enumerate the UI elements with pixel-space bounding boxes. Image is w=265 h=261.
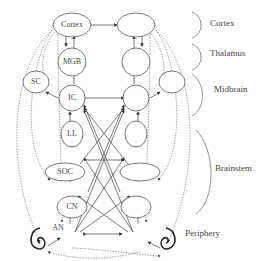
node-cn-right [121,196,151,218]
svg-text:MGB: MGB [63,57,81,66]
region-cortex: Cortex [210,18,235,28]
node-cortex-right [117,13,155,37]
auditory-pathway-diagram: Cortex MGB SC IC LL SOC CN AN Cortex Tha… [0,0,265,261]
svg-text:LL: LL [67,129,77,138]
node-ll-left: LL [61,121,83,147]
svg-text:IC: IC [68,93,76,102]
node-ll-right [125,121,147,147]
node-ic-left: IC [59,85,85,111]
node-soc-right [120,163,160,181]
node-cn-left: CN [57,196,87,218]
brace-cortex [192,12,201,38]
svg-text:SOC: SOC [57,167,73,176]
region-brainstem: Brainstem [215,163,252,173]
brace-midbrain [192,74,203,116]
svg-text:Cortex: Cortex [61,20,83,29]
node-sc-left: SC [23,71,49,93]
node-mgb-right [122,48,150,76]
node-mgb-left: MGB [58,48,86,76]
node-ic-right [123,85,149,111]
region-midbrain: Midbrain [214,84,248,94]
node-sc-right [159,71,185,93]
svg-text:CN: CN [66,202,77,211]
an-label: AN [52,223,64,232]
cochlea-left-icon [31,228,45,249]
descending-connections [17,30,190,258]
brace-thalamus [192,44,201,70]
region-thalamus: Thalamus [210,48,246,58]
node-cortex-left: Cortex [53,13,91,37]
cochlea-right-icon [161,228,175,249]
region-periphery: Periphery [185,228,220,238]
svg-text:SC: SC [31,77,41,86]
brace-brainstem [196,130,211,214]
node-soc-left: SOC [45,163,85,181]
